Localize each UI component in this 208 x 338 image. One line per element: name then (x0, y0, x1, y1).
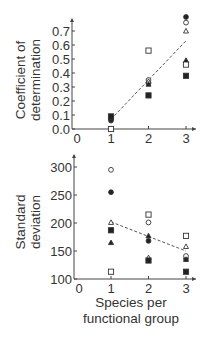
cropped-caption-fragment (0, 334, 208, 338)
y-axis-arrow-icon (70, 18, 74, 22)
y-axis-arrow-icon (72, 154, 76, 158)
circle-filled-marker (184, 15, 189, 20)
y-axis-label: Coefficient ofdetermination (13, 39, 43, 121)
square-open-marker (146, 212, 151, 217)
x-tick-label: 0 (73, 131, 80, 146)
y-tick-label: 250 (50, 188, 72, 203)
x-axis-arrow-icon (192, 277, 196, 281)
y-tick-label: 0.5 (52, 52, 70, 67)
x-tick-label: 1 (107, 131, 114, 146)
square-filled-marker (146, 93, 151, 98)
square-filled-marker (108, 114, 113, 119)
square-filled-marker (146, 258, 151, 263)
y-tick-label: 150 (50, 244, 72, 259)
y-tick-label: 0.6 (52, 38, 70, 53)
y-tick-label: 0.1 (52, 108, 70, 123)
y-tick-label: 0.0 (52, 122, 70, 137)
y-axis-label: Standarddeviation (13, 195, 43, 250)
square-open-marker (108, 126, 113, 131)
square-open-marker (183, 62, 188, 67)
circle-open-marker (184, 20, 189, 25)
y-tick-label: 100 (50, 272, 72, 287)
triangle-open-marker (109, 220, 114, 225)
square-open-marker (146, 48, 151, 53)
triangle-filled-marker (109, 240, 114, 245)
x-tick-label: 2 (145, 131, 152, 146)
triangle-filled-marker (146, 233, 151, 238)
circle-filled-marker (109, 190, 114, 195)
x-axis-label: Species per (95, 295, 167, 310)
square-filled-marker (183, 73, 188, 78)
y-tick-label: 0.2 (52, 94, 70, 109)
x-axis-arrow-icon (192, 127, 196, 131)
r2-plot: 0.00.10.20.30.40.50.60.70123Coefficient … (13, 15, 196, 146)
chart-figure: 0.00.10.20.30.40.50.60.70123Coefficient … (0, 0, 208, 338)
triangle-open-marker (184, 244, 189, 249)
sd-plot: 1001502002503000123StandarddeviationSpec… (13, 154, 196, 326)
y-tick-label: 0.3 (52, 80, 70, 95)
square-open-marker (108, 269, 113, 274)
circle-open-marker (146, 220, 151, 225)
x-tick-label: 1 (107, 281, 114, 296)
y-tick-label: 300 (50, 160, 72, 175)
y-tick-label: 0.7 (52, 24, 70, 39)
square-filled-marker (108, 228, 113, 233)
square-filled-marker (183, 269, 188, 274)
y-tick-label: 0.4 (52, 66, 70, 81)
x-axis-label: functional group (83, 311, 179, 326)
triangle-open-marker (184, 28, 189, 33)
y-tick-label: 200 (50, 216, 72, 231)
x-tick-label: 0 (75, 281, 82, 296)
x-tick-label: 3 (182, 131, 189, 146)
x-tick-label: 2 (145, 281, 152, 296)
square-open-marker (183, 233, 188, 238)
circle-open-marker (109, 167, 114, 172)
circle-filled-marker (146, 239, 151, 244)
x-tick-label: 3 (182, 281, 189, 296)
